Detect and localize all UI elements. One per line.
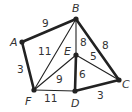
edge-weight-label: 8 <box>80 36 87 48</box>
edge-weight-label: 8 <box>102 39 109 51</box>
edge-weight-label: 11 <box>38 45 51 57</box>
vertex-label-d: D <box>71 97 79 110</box>
edge-weight-label: 6 <box>79 68 86 80</box>
edge-f-d <box>34 90 75 91</box>
edge-weight-label: 5 <box>90 50 97 62</box>
vertex-label-b: B <box>72 2 80 15</box>
edge-weight-label: 9 <box>56 73 63 85</box>
vertex-label-f: F <box>25 95 32 108</box>
graph-labels: 931188596113ABCDEF <box>9 2 130 110</box>
vertex-a <box>19 39 24 44</box>
edge-a-f <box>22 42 34 90</box>
edge-a-b <box>22 19 76 42</box>
edge-weight-label: 9 <box>42 17 49 29</box>
edge-e-d <box>75 55 76 91</box>
vertex-d <box>72 88 77 93</box>
vertex-f <box>31 87 36 92</box>
weighted-graph-diagram: 931188596113ABCDEF <box>0 0 132 112</box>
vertex-label-e: E <box>64 45 71 58</box>
edge-e-f <box>34 55 76 90</box>
vertex-b <box>73 16 78 21</box>
vertex-c <box>116 77 121 82</box>
edge-weight-label: 11 <box>44 92 57 104</box>
vertex-e <box>73 52 78 57</box>
edge-weight-label: 3 <box>97 89 104 101</box>
vertex-label-c: C <box>122 78 130 91</box>
edge-weight-label: 3 <box>17 63 24 75</box>
vertex-label-a: A <box>9 36 18 49</box>
